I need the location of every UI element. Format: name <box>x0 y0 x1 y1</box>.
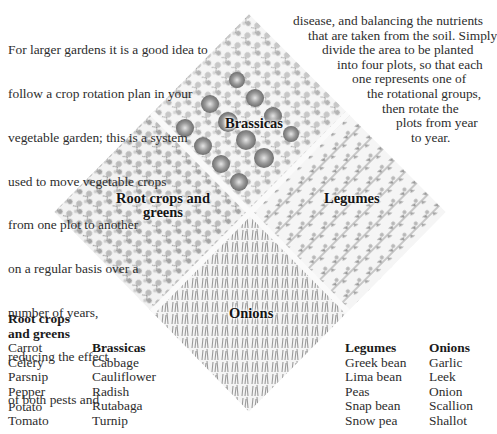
list-item: Cauliflower <box>92 370 156 385</box>
list-item: Greek bean <box>345 356 406 371</box>
label-brassicas: Brassicas <box>225 116 283 130</box>
list-item: Shallot <box>429 414 473 429</box>
list-item: Carrot <box>8 341 70 356</box>
list-item: Cabbage <box>92 356 156 371</box>
intro-line: to year. <box>411 131 450 146</box>
label-root-crops: Root crops and greens <box>108 191 218 219</box>
intro-text-right: disease, and balancing the nutrients tha… <box>0 14 497 160</box>
label-legumes: Legumes <box>324 191 380 205</box>
intro-line: disease, and balancing the nutrients <box>293 14 483 29</box>
list-item: Snap bean <box>345 399 406 414</box>
intro-line: on a regular basis over a <box>8 262 208 277</box>
list-item: Peas <box>345 385 406 400</box>
intro-line: that are taken from the soil. Simply <box>308 29 497 44</box>
list-item: Onion <box>429 385 473 400</box>
list-item: Radish <box>92 385 156 400</box>
list-item: Rutabaga <box>92 399 156 414</box>
intro-line: used to move vegetable crops <box>8 175 208 190</box>
intro-line: divide the area to be planted <box>322 43 473 58</box>
list-heading: Legumes <box>345 341 406 356</box>
list-item: Lima bean <box>345 370 406 385</box>
list-item: Scallion <box>429 399 473 414</box>
intro-line: the rotational groups, <box>367 87 481 102</box>
intro-line: from one plot to another <box>8 218 208 233</box>
list-heading: Brassicas <box>92 341 156 356</box>
intro-line: one represents one of <box>352 72 466 87</box>
list-brassicas: Brassicas Cabbage Cauliflower Radish Rut… <box>92 341 156 429</box>
list-heading: Root crops <box>8 312 70 327</box>
list-item: Snow pea <box>345 414 406 429</box>
list-item: Potato <box>8 400 70 415</box>
list-item: Leek <box>429 370 473 385</box>
label-onions: Onions <box>229 306 273 320</box>
list-heading: and greens <box>8 327 70 342</box>
intro-line: into four plots, so that each <box>337 58 483 73</box>
list-item: Parsnip <box>8 370 70 385</box>
list-heading: Onions <box>429 341 473 356</box>
intro-line: then rotate the <box>382 102 459 117</box>
list-item: Garlic <box>429 356 473 371</box>
list-root-crops: Root crops and greens Carrot Celery Pars… <box>8 312 70 429</box>
list-legumes: Legumes Greek bean Lima bean Peas Snap b… <box>345 341 406 429</box>
intro-line: plots from year <box>396 116 478 131</box>
list-onions: Onions Garlic Leek Onion Scallion Shallo… <box>429 341 473 429</box>
list-item: Celery <box>8 356 70 371</box>
list-item: Tomato <box>8 414 70 429</box>
list-item: Turnip <box>92 414 156 429</box>
list-item: Pepper <box>8 385 70 400</box>
